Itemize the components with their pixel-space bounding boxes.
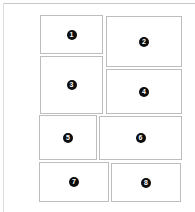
panel-number-badge: 5 <box>63 133 73 143</box>
panel-2: 2 <box>106 16 182 67</box>
panel-number-badge: 2 <box>139 37 149 47</box>
panel-number-badge: 6 <box>136 133 146 143</box>
panel-3: 3 <box>40 56 103 114</box>
panel-5: 5 <box>39 115 97 160</box>
panel-number-badge: 3 <box>67 80 77 90</box>
panel-7: 7 <box>39 162 109 202</box>
outer-frame-left-border <box>3 3 4 212</box>
panel-number-badge: 7 <box>69 177 79 187</box>
panel-number-badge: 1 <box>67 30 77 40</box>
outer-frame-top-border <box>3 3 195 4</box>
panel-1: 1 <box>40 15 103 54</box>
panel-4: 4 <box>106 69 182 114</box>
panel-number-badge: 8 <box>141 178 151 188</box>
panel-number-badge: 4 <box>139 87 149 97</box>
panel-6: 6 <box>99 116 182 160</box>
panel-8: 8 <box>111 163 181 202</box>
